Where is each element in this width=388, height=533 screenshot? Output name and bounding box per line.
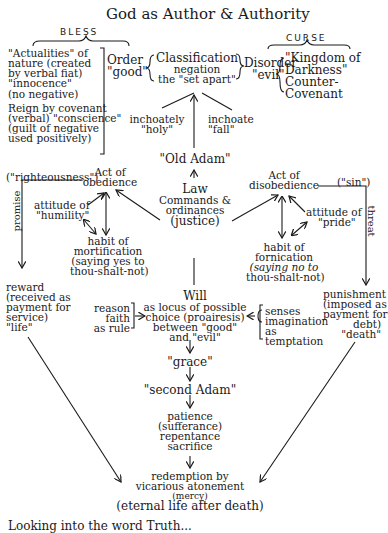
bless-label: BLESS <box>60 27 98 37</box>
bless-line: used positively) <box>8 133 91 143</box>
holy-label: "holy" <box>126 124 188 134</box>
diagram-title: God as Author & Authority <box>106 6 310 22</box>
will-line: and "evil" <box>140 332 250 342</box>
good-label: "good" <box>107 66 148 78</box>
act-line: disobedience <box>248 180 320 190</box>
act-line: obedience <box>80 177 140 187</box>
reason-line: as rule <box>84 323 130 333</box>
virtue-line: sacrifice <box>140 441 240 451</box>
fall-label: "fall" <box>208 124 235 134</box>
curse-label: CURSE <box>286 33 327 43</box>
promise-label: promise <box>11 192 22 232</box>
bless-line: (no negative) <box>8 89 78 99</box>
law-line: (justice) <box>150 215 240 227</box>
attitude-line: "humility" <box>36 210 89 220</box>
reward-line: "life" <box>6 322 32 332</box>
evil-label: "evil" <box>252 69 285 81</box>
attitude-line: "pride" <box>318 217 356 227</box>
old-adam: "Old Adam" <box>150 153 240 165</box>
redemption-line: vicarious atonement <box>110 481 270 491</box>
redemption-line: (eternal life after death) <box>100 500 280 512</box>
punishment-line: "death" <box>323 329 381 339</box>
threat-label: threat <box>366 206 377 236</box>
second-adam-node: "second Adam" <box>130 384 250 396</box>
footer-fragment: Looking into the word Truth... <box>8 520 192 532</box>
senses-line: temptation <box>265 336 323 346</box>
bless-line: "innocence" <box>8 78 72 88</box>
classification-line: the "set apart" <box>156 74 238 84</box>
curse-line: Covenant <box>285 88 343 100</box>
habit-line: thou-shalt-not) <box>70 266 146 276</box>
grace-node: "grace" <box>140 356 240 368</box>
sin-label: ("sin") <box>337 177 370 187</box>
habit-line: thou-shalt-not) <box>246 272 322 282</box>
